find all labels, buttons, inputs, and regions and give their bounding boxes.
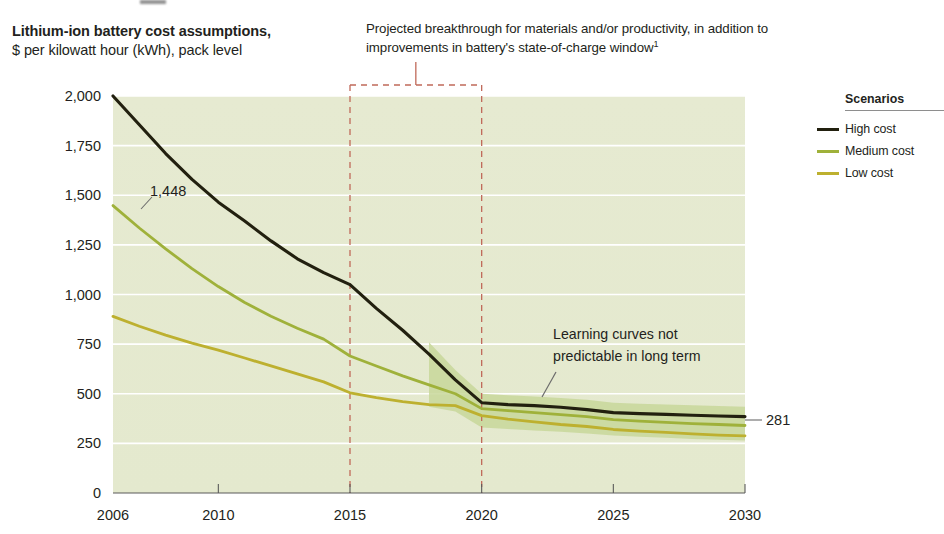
- learning-curve-line1: Learning curves not: [553, 326, 678, 342]
- x-tick-label: 2015: [334, 507, 366, 523]
- end-value-annotation: 281: [745, 412, 790, 428]
- y-tick-label: 500: [77, 386, 101, 402]
- x-tick-label: 2020: [466, 507, 498, 523]
- legend-item-low-cost[interactable]: Low cost: [845, 162, 944, 184]
- y-tick-label: 1,750: [65, 138, 101, 154]
- y-tick-label: 1,500: [65, 187, 101, 203]
- y-tick-label: 1,250: [65, 237, 101, 253]
- end-value-label: 281: [766, 412, 790, 428]
- legend-items: High costMedium costLow cost: [845, 118, 944, 184]
- y-tick-label: 750: [77, 336, 101, 352]
- legend-item-label: Medium cost: [845, 144, 914, 158]
- legend-item-label: Low cost: [845, 166, 893, 180]
- x-tick-label: 2006: [97, 507, 129, 523]
- legend-item-high-cost[interactable]: High cost: [845, 118, 944, 140]
- legend-divider: [845, 110, 944, 111]
- start-value-label: 1,448: [150, 183, 186, 199]
- x-tick-label: 2010: [202, 507, 234, 523]
- legend-swatch-icon: [817, 128, 839, 131]
- legend-title: Scenarios: [845, 92, 944, 110]
- legend: Scenarios High costMedium costLow cost: [845, 92, 944, 184]
- x-axis-labels: 200620102015202020252030: [97, 507, 761, 523]
- legend-swatch-icon: [817, 172, 839, 175]
- legend-item-label: High cost: [845, 122, 896, 136]
- y-tick-label: 1,000: [65, 287, 101, 303]
- x-tick-label: 2030: [729, 507, 761, 523]
- learning-curve-line2: predictable in long term: [553, 348, 700, 364]
- y-tick-label: 0: [93, 485, 101, 501]
- y-tick-label: 2,000: [65, 88, 101, 104]
- line-chart-svg: 02505007501,0001,2501,5001,7502,000 2006…: [0, 0, 944, 534]
- x-tick-label: 2025: [597, 507, 629, 523]
- legend-swatch-icon: [817, 150, 839, 153]
- y-tick-label: 250: [77, 435, 101, 451]
- chart-area: 02505007501,0001,2501,5001,7502,000 2006…: [0, 0, 944, 534]
- y-axis-labels: 02505007501,0001,2501,5001,7502,000: [65, 88, 101, 501]
- legend-item-medium-cost[interactable]: Medium cost: [845, 140, 944, 162]
